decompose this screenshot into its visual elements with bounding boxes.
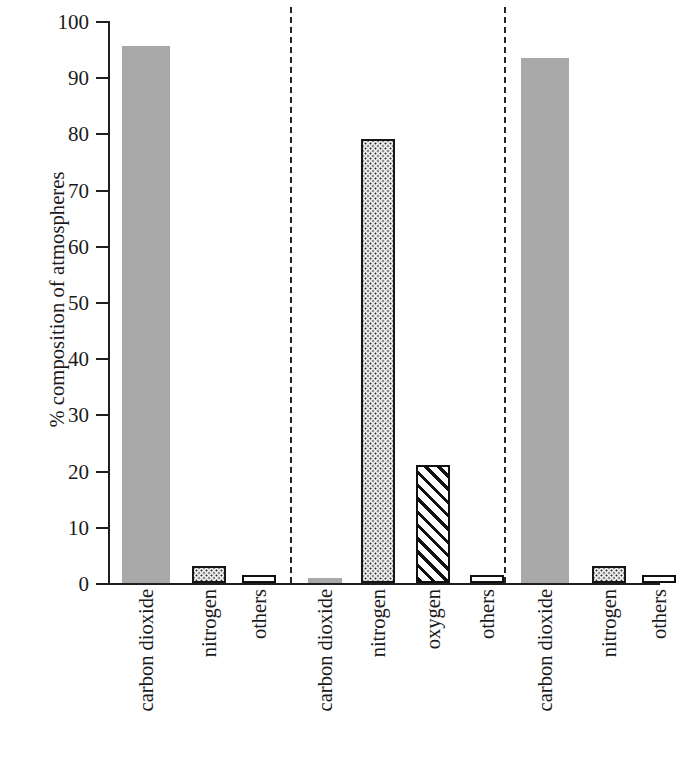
y-tick-30: 30 [96,414,108,416]
x-label-text: carbon dioxide [136,589,157,711]
y-tick-label: 40 [68,347,89,371]
x-axis-line [108,583,660,585]
x-label-text: nitrogen [368,589,389,657]
bar-g3-nitrogen [592,566,626,583]
y-tick-10: 10 [96,527,108,529]
y-tick-20: 20 [96,471,108,473]
group-separator-1 [290,7,292,583]
y-tick-40: 40 [96,358,108,360]
y-tick-label: 20 [68,460,89,484]
y-tick-50: 50 [96,302,108,304]
x-label-text: others [477,589,498,639]
y-tick-label: 70 [68,179,89,203]
y-tick-70: 70 [96,190,108,192]
bar-g3-carbon-dioxide [521,58,569,583]
x-label-text: others [249,589,270,639]
bar-g1-nitrogen [192,566,226,583]
y-tick-label: 60 [68,235,89,259]
y-tick-label: 0 [79,572,90,596]
bar-g1-carbon-dioxide [122,46,170,583]
bar-g1-others [242,575,276,583]
y-tick-label: 100 [58,10,90,34]
y-tick-100: 100 [96,21,108,23]
x-label-text: oxygen [423,589,444,649]
y-axis-line [108,21,110,583]
y-axis-title: % composition of atmospheres [46,140,69,460]
y-tick-label: 80 [68,122,89,146]
y-tick-label: 90 [68,66,89,90]
y-tick-90: 90 [96,77,108,79]
bar-g2-carbon-dioxide [308,578,342,583]
y-tick-label: 10 [68,516,89,540]
y-tick-0: 0 [96,583,108,585]
bar-g2-nitrogen [361,139,395,583]
bar-g3-others [642,575,676,583]
plot-area: 1009080706050403020100 carbon dioxidenit… [108,21,660,583]
y-tick-label: 50 [68,291,89,315]
x-label-text: others [649,589,670,639]
x-label-text: nitrogen [199,589,220,657]
x-label-text: nitrogen [599,589,620,657]
y-tick-80: 80 [96,133,108,135]
bar-g2-oxygen [416,465,450,583]
x-label-text: carbon dioxide [535,589,556,711]
group-separator-2 [504,7,506,583]
y-tick-60: 60 [96,246,108,248]
x-label-text: carbon dioxide [315,589,336,711]
bar-g2-others [470,575,504,583]
y-tick-label: 30 [68,403,89,427]
